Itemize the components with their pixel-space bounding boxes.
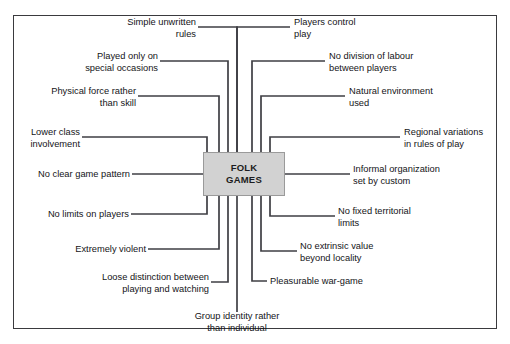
center-node-line-1: FOLK xyxy=(231,162,258,175)
node-label-natural-environment-used: Natural environment used xyxy=(349,85,465,109)
node-label-pleasurable-war-game: Pleasurable war-game xyxy=(270,275,390,287)
node-label-played-only-special-occasions: Played only on special occasions xyxy=(52,50,158,74)
node-label-lower-class-involvement: Lower class involvement xyxy=(10,126,80,150)
node-label-informal-organization: Informal organization set by custom xyxy=(353,163,471,187)
center-node-folk-games: FOLK GAMES xyxy=(203,152,285,196)
node-label-extremely-violent: Extremely violent xyxy=(52,243,146,255)
node-label-no-clear-game-pattern: No clear game pattern xyxy=(14,168,130,180)
diagram-canvas: FOLK GAMES Simple unwritten rules Played… xyxy=(0,0,510,344)
node-label-no-extrinsic-value: No extrinsic value beyond locality xyxy=(300,240,410,264)
node-label-simple-unwritten-rules: Simple unwritten rules xyxy=(90,16,196,40)
node-label-regional-variations: Regional variations in rules of play xyxy=(404,126,508,150)
node-label-no-division-of-labour: No division of labour between players xyxy=(329,50,447,74)
node-label-physical-force-rather: Physical force rather than skill xyxy=(22,85,136,109)
center-node-line-2: GAMES xyxy=(226,174,262,187)
node-label-group-identity-rather: Group identity rather than individual xyxy=(163,310,311,334)
node-label-no-limits-on-players: No limits on players xyxy=(26,208,129,220)
node-label-players-control-play: Players control play xyxy=(294,16,388,40)
node-label-no-fixed-territorial-limits: No fixed territorial limits xyxy=(338,205,450,229)
node-label-loose-distinction: Loose distinction between playing and wa… xyxy=(66,271,209,295)
